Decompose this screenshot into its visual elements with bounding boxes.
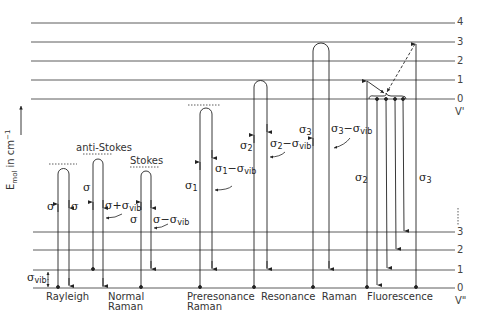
upper-level-2: 2 <box>457 56 463 66</box>
preresonance-transition <box>199 108 213 289</box>
label-fluorescence: Fluorescence <box>367 292 433 302</box>
resonance-transition-2 <box>253 81 268 289</box>
stokes-transition <box>140 171 152 289</box>
label-anti-stokes: anti-Stokes <box>76 143 132 153</box>
lower-state-label: V" <box>455 296 466 306</box>
label-stokes: Stokes <box>130 156 163 166</box>
sigma-minus-vib: σ−σvib <box>153 214 189 227</box>
sigma2-fluorescence: σ2 <box>355 172 368 185</box>
upper-level-0: 0 <box>457 94 463 104</box>
label-preresonance-2: Raman <box>187 302 222 312</box>
lower-level-3: 3 <box>457 227 463 237</box>
sigma1-label: σ1 <box>185 180 198 193</box>
upper-level-4: 4 <box>457 17 463 27</box>
lower-level-2: 2 <box>457 245 463 255</box>
lower-level-0: 0 <box>457 283 463 293</box>
upper-state-label: V' <box>455 107 465 117</box>
upper-levels <box>31 23 455 99</box>
sigma-rayleigh-up: σ <box>47 201 55 212</box>
anti-stokes-transition <box>92 159 104 287</box>
sigma1-minus-vib: σ1−σvib <box>215 163 256 176</box>
sigma-rayleigh-down: σ <box>71 201 79 212</box>
lower-levels <box>33 232 455 288</box>
label-rayleigh: Rayleigh <box>46 292 89 302</box>
upper-level-3: 3 <box>457 37 463 47</box>
sigma-vib-label: σvib <box>27 272 47 285</box>
sigma3-label: σ3 <box>299 124 312 137</box>
upper-level-1: 1 <box>457 75 463 85</box>
label-resonance-raman: Resonance Raman <box>261 292 357 302</box>
sigma2-minus-vib: σ2−σvib <box>270 138 311 151</box>
sigma3-minus-vib: σ3−σvib <box>331 123 372 136</box>
y-axis-label: Emol in cm−1 <box>4 130 19 190</box>
fluorescence-transitions <box>366 44 418 289</box>
label-normal-raman-2: Raman <box>108 302 143 312</box>
sigma2-label: σ2 <box>240 140 253 153</box>
rayleigh-transition <box>57 169 70 289</box>
sigma-anti-stokes: σ <box>83 182 91 193</box>
sigma-stokes: σ <box>130 214 138 225</box>
lower-level-1: 1 <box>457 265 463 275</box>
sigma-plus-vib: σ+σvib <box>105 200 141 213</box>
sigma3-fluorescence: σ3 <box>419 172 432 185</box>
